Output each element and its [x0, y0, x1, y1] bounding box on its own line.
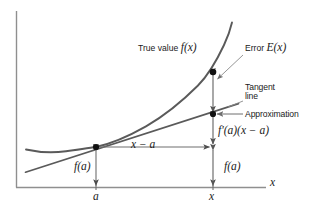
label-tangent-line-2: line [245, 92, 275, 101]
label-approximation: Approximation [245, 110, 299, 119]
label-true-value: True value f(x) [138, 41, 197, 53]
function-curve [26, 23, 232, 153]
label-fa-right: f(a) [224, 160, 241, 172]
axis-tick-label-a: a [93, 190, 99, 202]
label-x-minus-a: x − a [131, 138, 155, 150]
tangent-leader [228, 101, 243, 107]
label-fprime-term: f'(a)(x − a) [218, 124, 269, 136]
axis-tick-label-x: x [209, 190, 214, 202]
point-a-dot [93, 144, 99, 150]
label-error-math: E(x) [267, 41, 287, 53]
figure-container: True value f(x) Error E(x) Tangent line … [0, 0, 321, 213]
label-error: Error E(x) [245, 41, 286, 53]
label-true-value-prefix: True value [138, 43, 178, 53]
point-approximation-dot [210, 111, 216, 117]
label-true-value-math: f(x) [181, 41, 197, 53]
axis-label-x: x [270, 176, 275, 188]
point-true-value-dot [210, 69, 217, 76]
label-fa-left: f(a) [74, 160, 91, 172]
label-error-prefix: Error [245, 43, 264, 53]
label-tangent-line: Tangent line [245, 83, 275, 102]
error-leader [218, 55, 244, 79]
